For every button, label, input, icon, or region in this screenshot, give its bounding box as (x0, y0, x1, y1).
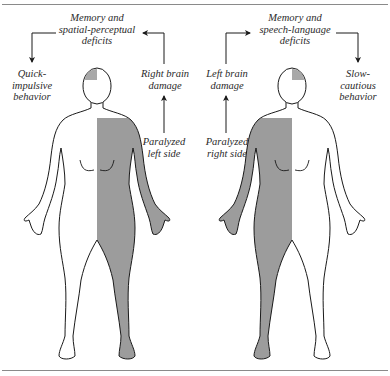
right-paralyzed-region (212, 118, 292, 368)
arrow-to-quick-impulsive-icon (32, 33, 56, 62)
right-brain-damage-region (292, 69, 304, 80)
arrow-to-spatial-deficits-icon (143, 33, 164, 64)
arrow-to-slow-cautious-icon (336, 33, 358, 62)
left-paralyzed-region (97, 118, 177, 368)
diagram-canvas (0, 0, 390, 376)
arrow-to-speech-deficits-icon (226, 33, 250, 64)
left-brain-damage-region (85, 69, 97, 80)
right-figure (212, 68, 365, 368)
left-figure (24, 68, 177, 368)
